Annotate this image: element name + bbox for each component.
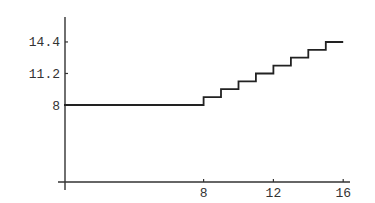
ticks: 81216811.214.4 [29,35,351,201]
y-tick-label: 14.4 [29,35,60,50]
step-chart: 81216811.214.4 [0,0,375,203]
series [64,42,343,105]
y-tick-label: 11.2 [29,67,60,82]
x-tick-label: 12 [266,186,282,201]
x-tick-label: 8 [200,186,208,201]
y-tick-label: 8 [52,99,60,114]
step-line [64,42,343,105]
x-tick-label: 16 [335,186,351,201]
